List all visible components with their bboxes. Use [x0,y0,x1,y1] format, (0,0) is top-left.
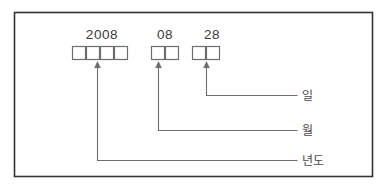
month-number: 08 [157,27,173,42]
diagram-canvas: 2008 년도 08 월 28 일 [0,0,390,189]
month-digit-box-1[interactable] [152,47,165,60]
year-leader-arrowhead [94,61,101,68]
day-number: 28 [204,27,220,42]
year-digit-box-2[interactable] [87,47,100,60]
day-leader-line [207,66,298,96]
day-digit-box-1[interactable] [193,47,206,60]
year-digit-box-4[interactable] [115,47,128,60]
year-leader-line [98,66,298,161]
year-digit-box-3[interactable] [101,47,114,60]
month-label: 월 [302,124,313,138]
year-label: 년도 [302,154,324,168]
day-leader-arrowhead [203,61,210,68]
day-label: 일 [302,89,313,103]
day-digit-box-2[interactable] [207,47,220,60]
month-digit-box-2[interactable] [166,47,179,60]
month-leader-arrowhead [155,61,162,68]
year-number: 2008 [86,27,118,42]
month-leader-line [159,66,298,131]
year-digit-box-1[interactable] [73,47,86,60]
date-format-diagram: 2008 년도 08 월 28 일 [0,0,390,189]
diagram-border [15,13,373,177]
